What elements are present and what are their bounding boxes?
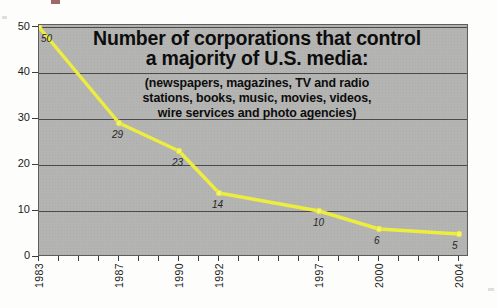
x-tick-1996 [298, 256, 299, 261]
y-tick-mark-30 [32, 118, 38, 119]
x-tick-label-2000: 2000 [373, 263, 385, 288]
x-tick-1986 [98, 256, 99, 261]
x-tick-1993 [238, 256, 239, 261]
y-tick-mark-10 [32, 210, 38, 211]
y-tick-label-20: 20 [4, 157, 30, 169]
x-tick-1999 [358, 256, 359, 261]
x-tick-1990 [178, 256, 179, 261]
data-label-1990: 23 [172, 157, 183, 168]
x-tick-1988 [138, 256, 139, 261]
data-label-1997: 10 [313, 217, 324, 228]
x-tick-label-2004: 2004 [453, 263, 465, 288]
x-tick-1994 [258, 256, 259, 261]
data-label-1987: 29 [112, 129, 123, 140]
x-tick-2000 [378, 256, 379, 261]
y-tick-label-30: 30 [4, 111, 30, 123]
x-tick-1997 [318, 256, 319, 261]
y-tick-mark-20 [32, 164, 38, 165]
x-tick-label-1997: 1997 [313, 263, 325, 288]
y-tick-label-10: 10 [4, 203, 30, 215]
chart-figure: 50 40 30 20 10 0 1983 [0, 0, 497, 308]
y-tick-mark-50 [32, 26, 38, 27]
x-tick-2002 [418, 256, 419, 261]
x-tick-label-1983: 1983 [33, 263, 45, 288]
x-tick-label-1992: 1992 [213, 263, 225, 288]
y-tick-label-40: 40 [4, 65, 30, 77]
x-tick-1983 [38, 256, 39, 261]
x-tick-label-1987: 1987 [113, 263, 125, 288]
x-tick-1987 [118, 256, 119, 261]
y-axis: 50 40 30 20 10 0 [0, 0, 497, 308]
data-label-2004: 5 [452, 240, 458, 251]
x-tick-1989 [158, 256, 159, 261]
y-tick-mark-40 [32, 72, 38, 73]
data-label-1983: 50 [41, 33, 52, 44]
x-tick-1998 [338, 256, 339, 261]
x-tick-label-1990: 1990 [173, 263, 185, 288]
x-tick-1991 [198, 256, 199, 261]
x-tick-1995 [278, 256, 279, 261]
x-tick-1985 [78, 256, 79, 261]
x-tick-2004 [458, 256, 459, 261]
x-tick-1984 [58, 256, 59, 261]
x-tick-1992 [218, 256, 219, 261]
y-tick-label-50: 50 [4, 20, 30, 32]
x-tick-2003 [438, 256, 439, 261]
x-tick-2001 [398, 256, 399, 261]
data-label-2000: 6 [374, 235, 380, 246]
data-label-1992: 14 [212, 199, 223, 210]
y-tick-label-0: 0 [4, 249, 30, 261]
